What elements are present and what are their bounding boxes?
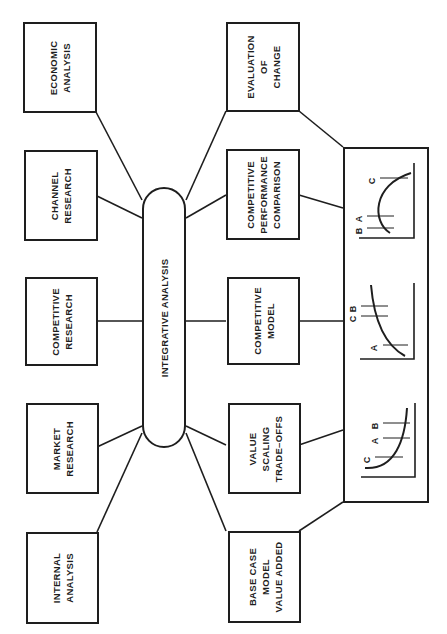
performance-mini-chart xyxy=(359,163,414,238)
performance-marker-c: C xyxy=(367,177,377,184)
model-marker-c: C xyxy=(348,315,358,322)
value-marker-b: B xyxy=(370,422,380,429)
model-marker-b: B xyxy=(348,305,358,312)
performance-marker-a: A xyxy=(354,215,364,222)
value-marker-c: C xyxy=(362,456,372,463)
mini-charts: B A C B C A B A C xyxy=(0,0,447,634)
value-marker-a: A xyxy=(370,437,380,444)
performance-marker-b: B xyxy=(354,227,364,234)
model-marker-a: A xyxy=(369,344,379,351)
